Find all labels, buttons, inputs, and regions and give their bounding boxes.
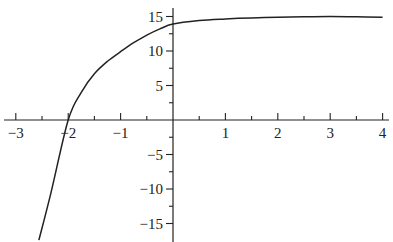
x-tick-label: 4 bbox=[379, 125, 387, 141]
x-tick-label: −1 bbox=[113, 125, 129, 141]
y-tick-label: −10 bbox=[140, 181, 163, 197]
y-tick-label: −5 bbox=[147, 147, 163, 163]
x-tick-label: 3 bbox=[326, 125, 334, 141]
y-tick-label: 5 bbox=[156, 78, 164, 94]
x-tick-label: −3 bbox=[8, 125, 24, 141]
y-tick-label: −15 bbox=[140, 216, 163, 232]
y-tick-label: 10 bbox=[148, 43, 163, 59]
x-tick-label: −2 bbox=[60, 125, 76, 141]
x-tick-label: 1 bbox=[222, 125, 230, 141]
x-tick-label: 2 bbox=[274, 125, 282, 141]
y-tick-label: 15 bbox=[148, 9, 163, 25]
chart-plot: −3−2−1123415105−5−10−15 bbox=[0, 0, 393, 242]
